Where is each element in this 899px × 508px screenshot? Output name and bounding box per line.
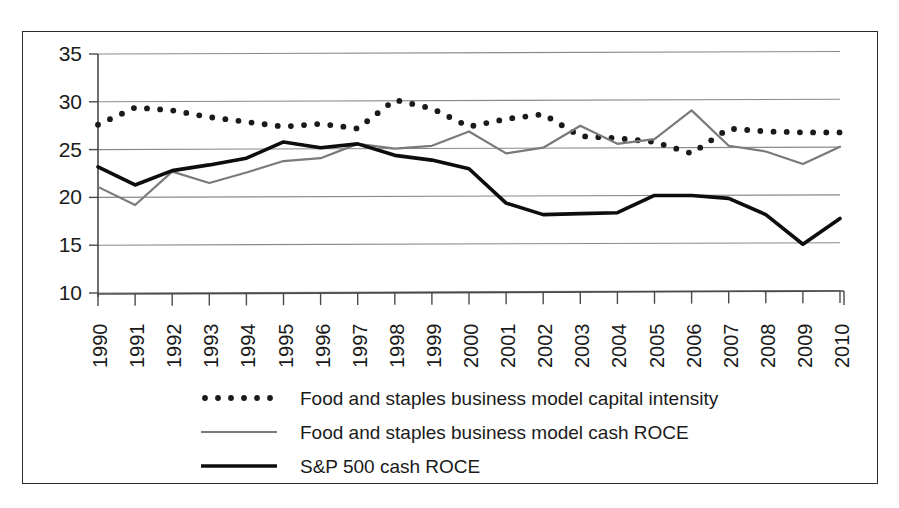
- y-axis-tick-label: 35: [59, 42, 82, 65]
- x-axis-tick-labels: 1990199119921993199419951996199719981999…: [89, 324, 853, 369]
- series-dot: [458, 120, 464, 126]
- y-axis-tick-label: 10: [59, 281, 82, 304]
- legend-label: S&P 500 cash ROCE: [300, 456, 480, 477]
- series-dot: [119, 111, 125, 117]
- x-axis-tick-label: 1997: [349, 324, 371, 369]
- line-chart: 101520253035 199019911992199319941995199…: [0, 0, 899, 508]
- series-dot: [719, 130, 725, 136]
- series-dot: [686, 150, 692, 156]
- series-dot: [559, 122, 565, 128]
- series-dot: [222, 116, 228, 122]
- data-series-group: [95, 98, 842, 244]
- x-axis-tick-label: 2000: [460, 324, 482, 369]
- series-dot: [757, 128, 763, 134]
- series-dot: [837, 129, 843, 135]
- series-dot: [697, 145, 703, 151]
- x-axis-tick-label: 1991: [126, 324, 148, 369]
- x-axis-tick-label: 1998: [386, 324, 408, 369]
- x-axis-tick-label: 2008: [757, 324, 779, 369]
- series-dot: [275, 123, 281, 129]
- chart-legend: Food and staples business model capital …: [201, 388, 719, 477]
- legend-swatch-dot: [228, 395, 234, 401]
- x-axis-tick-label: 2007: [720, 324, 742, 369]
- x-axis-tick-label: 1990: [89, 324, 111, 369]
- x-axis-tick-label: 1993: [200, 324, 222, 369]
- series-dot: [744, 127, 750, 133]
- x-axis-tick-label: 2002: [534, 324, 556, 369]
- gridline: [98, 99, 840, 102]
- series-dot: [249, 120, 255, 126]
- series-dot: [483, 120, 489, 126]
- series-dot: [327, 122, 333, 128]
- series-dot: [797, 129, 803, 135]
- legend-swatch-dot: [202, 395, 208, 401]
- y-axis-tick-label: 20: [59, 185, 82, 208]
- series-dot: [288, 123, 294, 129]
- series-dot: [396, 98, 402, 104]
- gridline: [98, 52, 840, 55]
- series-dot: [661, 142, 667, 148]
- series-dot: [731, 126, 737, 132]
- series-dot: [446, 114, 452, 120]
- series-dot: [582, 134, 588, 140]
- series-dot: [131, 105, 137, 111]
- series-dot: [314, 121, 320, 127]
- x-axis-tick-label: 2010: [831, 324, 853, 369]
- series-line-food-staples-cash-roce: [98, 110, 840, 205]
- x-axis-tick-label: 2005: [646, 324, 668, 369]
- y-axis: [89, 54, 98, 297]
- gridline: [98, 147, 840, 150]
- series-dot: [301, 122, 307, 128]
- legend-label: Food and staples business model cash ROC…: [300, 422, 689, 443]
- series-dot: [170, 108, 176, 114]
- series-dot: [810, 129, 816, 135]
- y-axis-tick-label: 25: [59, 138, 82, 161]
- x-axis-tick-label: 1995: [275, 324, 297, 369]
- x-axis: [98, 291, 844, 306]
- series-dot: [144, 106, 150, 112]
- series-dot: [509, 115, 515, 121]
- y-axis-tick-label: 30: [59, 90, 82, 113]
- series-dot: [422, 104, 428, 110]
- x-axis-tick-label: 1992: [163, 324, 185, 369]
- series-dot: [157, 107, 163, 113]
- series-dot: [354, 126, 360, 132]
- x-axis-tick-label: 1996: [312, 324, 334, 369]
- x-axis-tick-label: 2001: [497, 324, 519, 369]
- x-axis-tick-label: 1994: [237, 324, 259, 369]
- series-dot: [784, 129, 790, 135]
- series-dot: [364, 118, 370, 124]
- legend-swatch-dot: [267, 395, 273, 401]
- series-dot: [708, 137, 714, 143]
- series-dot: [522, 114, 528, 120]
- gridlines-group: [98, 52, 840, 294]
- series-dot: [548, 116, 554, 122]
- series-dot: [622, 136, 628, 142]
- series-dot: [435, 108, 441, 114]
- x-axis-tick-label: 2006: [683, 324, 705, 369]
- legend-item: Food and staples business model cash ROC…: [201, 422, 689, 443]
- y-axis-tick-label: 15: [59, 233, 82, 256]
- legend-label: Food and staples business model capital …: [300, 388, 719, 409]
- series-dot: [375, 110, 381, 116]
- x-axis-tick-label: 2003: [571, 324, 593, 369]
- x-axis-tick-label: 2004: [608, 324, 630, 369]
- series-dot: [409, 101, 415, 107]
- series-dot: [673, 146, 679, 152]
- legend-swatch-dot: [215, 395, 221, 401]
- gridline: [98, 243, 840, 246]
- series-dot: [236, 118, 242, 124]
- series-dot: [536, 112, 542, 118]
- legend-item: S&P 500 cash ROCE: [201, 456, 480, 477]
- series-dot: [95, 122, 101, 128]
- legend-item: Food and staples business model capital …: [202, 388, 719, 409]
- x-axis-tick-label: 2009: [794, 324, 816, 369]
- series-line-sp500-cash-roce: [98, 142, 840, 244]
- series-dot: [196, 112, 202, 118]
- series-dot: [771, 129, 777, 135]
- y-axis-tick-labels: 101520253035: [59, 42, 82, 304]
- series-dot: [385, 102, 391, 108]
- series-dot: [496, 118, 502, 124]
- legend-swatch-dot: [254, 395, 260, 401]
- chart-figure: 101520253035 199019911992199319941995199…: [0, 0, 899, 508]
